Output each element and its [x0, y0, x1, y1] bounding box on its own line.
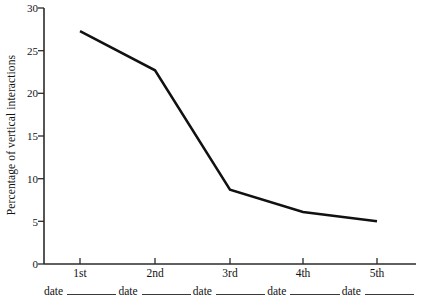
- x-tick-label-5th: 5th: [352, 268, 402, 280]
- plot-area: [0, 0, 423, 305]
- x-axis-ticks: [80, 258, 377, 264]
- date-label: date: [44, 285, 63, 297]
- axis-lines: [44, 8, 416, 264]
- x-tick-label-1st: 1st: [55, 268, 105, 280]
- date-blank-item: date: [267, 285, 341, 297]
- date-blank-line[interactable]: [142, 285, 191, 295]
- date-blank-row: date date date date date: [44, 285, 416, 301]
- line-chart: Percentage of vertical interactions 30 2…: [0, 0, 423, 305]
- y-axis-ticks: [38, 8, 44, 264]
- date-label: date: [267, 285, 286, 297]
- x-tick-label-3rd: 3rd: [205, 268, 255, 280]
- date-blank-item: date: [342, 285, 416, 297]
- date-blank-line[interactable]: [216, 285, 265, 295]
- date-blank-line[interactable]: [290, 285, 339, 295]
- date-label: date: [342, 285, 361, 297]
- date-blank-item: date: [118, 285, 192, 297]
- x-tick-label-2nd: 2nd: [130, 268, 180, 280]
- date-label: date: [118, 285, 137, 297]
- date-blank-item: date: [44, 285, 118, 297]
- data-series-line: [80, 31, 377, 221]
- date-label: date: [193, 285, 212, 297]
- date-blank-line[interactable]: [67, 285, 116, 295]
- date-blank-item: date: [193, 285, 267, 297]
- date-blank-line[interactable]: [365, 285, 414, 295]
- x-tick-label-4th: 4th: [278, 268, 328, 280]
